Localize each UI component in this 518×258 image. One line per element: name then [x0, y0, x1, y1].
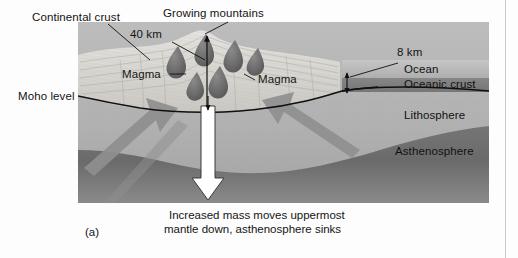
figure-root: Continental crust Growing mountains 40 k…: [0, 0, 518, 258]
label-depth-40km: 40 km: [130, 27, 162, 41]
label-moho-level: Moho level: [18, 89, 75, 103]
label-continental-crust: Continental crust: [32, 10, 120, 24]
label-growing-mountains: Growing mountains: [163, 6, 264, 20]
label-lithosphere: Lithosphere: [404, 108, 465, 122]
caption-line-1: Increased mass moves uppermost: [169, 208, 345, 223]
label-asthenosphere: Asthenosphere: [395, 144, 474, 158]
caption-line-2: mantle down, asthenosphere sinks: [164, 222, 341, 237]
label-depth-8km: 8 km: [397, 45, 422, 59]
label-magma-left: Magma: [122, 67, 161, 81]
label-oceanic-crust: Oceanic crust: [404, 77, 476, 91]
panel-identifier: (a): [85, 226, 99, 238]
label-ocean: Ocean: [404, 62, 438, 76]
label-magma-right: Magma: [258, 72, 297, 86]
